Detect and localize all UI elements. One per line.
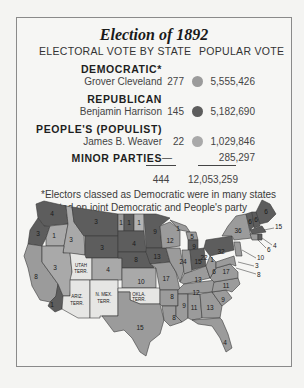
svg-text:1: 1 <box>50 301 54 308</box>
svg-text:UTAH: UTAH <box>75 263 87 268</box>
svg-text:11: 11 <box>223 282 230 289</box>
svg-text:6: 6 <box>212 268 216 275</box>
state-new-jersey <box>234 242 242 256</box>
svg-text:ARIZ.: ARIZ. <box>71 294 83 299</box>
svg-text:4: 4 <box>273 242 277 249</box>
svg-text:3: 3 <box>255 262 259 269</box>
svg-text:1: 1 <box>127 219 131 226</box>
svg-text:4: 4 <box>223 339 227 346</box>
svg-text:6: 6 <box>264 208 268 215</box>
svg-text:3: 3 <box>100 244 104 251</box>
svg-text:TERR.: TERR. <box>74 269 88 274</box>
state-florida <box>192 318 232 352</box>
svg-text:11: 11 <box>191 304 198 311</box>
svg-text:12: 12 <box>192 289 200 296</box>
svg-text:32: 32 <box>217 248 225 255</box>
svg-text:8: 8 <box>170 293 174 300</box>
svg-text:9: 9 <box>221 296 225 303</box>
svg-text:8: 8 <box>134 256 138 263</box>
svg-text:13: 13 <box>206 304 214 311</box>
svg-text:17: 17 <box>162 275 170 282</box>
svg-text:1: 1 <box>52 232 56 239</box>
svg-text:15: 15 <box>136 324 144 331</box>
svg-text:10: 10 <box>137 278 145 285</box>
svg-text:3: 3 <box>94 218 98 225</box>
svg-text:10: 10 <box>257 254 265 261</box>
state-connecticut <box>250 234 258 240</box>
svg-text:6: 6 <box>267 246 271 253</box>
svg-text:15: 15 <box>275 223 283 230</box>
svg-text:9: 9 <box>153 228 157 235</box>
svg-text:5: 5 <box>190 233 194 240</box>
svg-text:24: 24 <box>179 258 187 265</box>
svg-text:8: 8 <box>172 314 176 321</box>
svg-text:1: 1 <box>137 219 141 226</box>
svg-text:6: 6 <box>254 216 258 223</box>
svg-text:8: 8 <box>34 273 38 280</box>
svg-text:17: 17 <box>222 268 230 275</box>
svg-text:6: 6 <box>248 218 252 225</box>
svg-text:TERR.: TERR. <box>70 301 84 306</box>
svg-text:1: 1 <box>119 219 123 226</box>
state-rhode-island <box>258 234 262 240</box>
svg-text:3: 3 <box>36 230 40 237</box>
svg-text:4: 4 <box>132 240 136 247</box>
svg-text:4: 4 <box>50 210 54 217</box>
electoral-map: 4 3 1 3 8 3 3 3 4 1 1 1 4 8 10 1 9 13 17… <box>0 0 304 388</box>
svg-text:22: 22 <box>200 254 208 261</box>
svg-text:9: 9 <box>192 243 196 250</box>
svg-text:1: 1 <box>176 225 180 232</box>
svg-text:12: 12 <box>166 237 174 244</box>
svg-text:36: 36 <box>234 227 242 234</box>
svg-text:4: 4 <box>106 266 110 273</box>
svg-text:9: 9 <box>182 302 186 309</box>
svg-text:13: 13 <box>194 276 202 283</box>
svg-text:8: 8 <box>257 271 261 278</box>
svg-text:N. MEX.: N. MEX. <box>96 292 113 297</box>
svg-text:3: 3 <box>69 236 73 243</box>
svg-text:3: 3 <box>53 264 57 271</box>
state-arkansas <box>160 290 178 306</box>
svg-text:1: 1 <box>210 256 214 263</box>
svg-text:13: 13 <box>153 253 161 260</box>
svg-text:TERR.: TERR. <box>132 297 146 302</box>
svg-text:TERR.: TERR. <box>97 299 111 304</box>
